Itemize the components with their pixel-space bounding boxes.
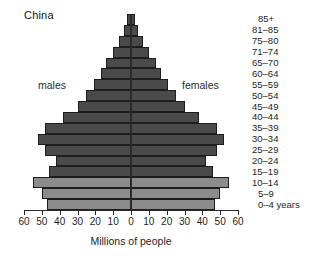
x-axis-tick-label: 50 <box>215 216 226 227</box>
age-group-label: 81–85 <box>252 25 310 35</box>
bar-male-5054 <box>86 90 131 101</box>
age-group-label: 45–49 <box>252 102 310 112</box>
x-axis-tick <box>60 210 61 215</box>
x-axis-tick <box>78 210 79 215</box>
bar-female-3539 <box>131 123 217 134</box>
age-group-label: 35–39 <box>252 123 310 133</box>
bar-female-2024 <box>131 156 206 167</box>
bar-male-4044 <box>63 112 131 123</box>
bar-male-5559 <box>94 79 131 90</box>
age-group-label: 0–4 years <box>252 200 316 210</box>
bar-male-3539 <box>45 123 131 134</box>
x-axis-tick <box>238 210 239 215</box>
age-group-label: 40–44 <box>252 112 310 122</box>
age-group-label: 55–59 <box>252 80 310 90</box>
population-pyramid-figure: China males females 60504030201001020304… <box>0 0 319 260</box>
bar-male-4549 <box>78 101 132 112</box>
x-axis-tick-label: 10 <box>143 216 154 227</box>
age-group-label: 15–19 <box>252 167 310 177</box>
bar-male-1519 <box>49 166 131 177</box>
x-axis-tick-label: 0 <box>128 216 134 227</box>
age-group-label: 30–34 <box>252 134 310 144</box>
x-axis-tick-label: 10 <box>108 216 119 227</box>
bar-female-3034 <box>131 134 224 145</box>
x-axis-tick-label: 60 <box>18 216 29 227</box>
females-label: females <box>182 79 219 91</box>
age-group-label: 71–74 <box>252 47 310 57</box>
x-axis-tick <box>131 210 132 215</box>
x-axis-tick <box>220 210 221 215</box>
x-axis-tick-label: 30 <box>72 216 83 227</box>
bar-female-6570 <box>131 58 156 69</box>
age-group-label: 65–70 <box>252 58 310 68</box>
bar-male-6570 <box>106 58 131 69</box>
age-group-label: 60–64 <box>252 69 310 79</box>
bar-male-7174 <box>113 47 131 58</box>
x-axis-tick-label: 20 <box>161 216 172 227</box>
age-group-label: 20–24 <box>252 156 310 166</box>
x-axis-tick <box>149 210 150 215</box>
bar-male-04 <box>47 199 131 210</box>
age-group-legend: 85+81–8575–8071–7465–7060–6455–5950–5445… <box>252 14 314 210</box>
center-axis-line <box>131 14 132 210</box>
bar-female-6064 <box>131 68 161 79</box>
age-group-label: 5–9 <box>252 189 316 199</box>
bar-female-7174 <box>131 47 149 58</box>
x-axis-tick-label: 30 <box>179 216 190 227</box>
bar-male-3034 <box>38 134 131 145</box>
x-axis-tick-label: 50 <box>36 216 47 227</box>
x-axis-tick-label: 20 <box>90 216 101 227</box>
bar-female-7580 <box>131 36 143 47</box>
x-axis-tick <box>95 210 96 215</box>
x-axis-title: Millions of people <box>0 235 262 247</box>
x-axis-tick-label: 40 <box>54 216 65 227</box>
bar-female-85+ <box>131 14 135 25</box>
bar-male-1014 <box>33 177 131 188</box>
x-axis-tick <box>202 210 203 215</box>
x-axis-tick-label: 60 <box>232 216 243 227</box>
age-group-label: 85+ <box>252 14 316 24</box>
bar-male-2024 <box>56 156 131 167</box>
bar-female-2529 <box>131 145 217 156</box>
bar-female-8185 <box>131 25 138 36</box>
x-axis-tick <box>113 210 114 215</box>
bar-female-4549 <box>131 101 185 112</box>
x-axis-tick <box>167 210 168 215</box>
x-axis-tick <box>42 210 43 215</box>
x-axis-tick <box>185 210 186 215</box>
age-group-label: 25–29 <box>252 145 310 155</box>
bar-female-1519 <box>131 166 213 177</box>
chart-plot-area <box>24 14 238 210</box>
bar-male-6064 <box>101 68 131 79</box>
bar-female-1014 <box>131 177 229 188</box>
age-group-label: 10–14 <box>252 178 310 188</box>
age-group-label: 50–54 <box>252 91 310 101</box>
bar-female-04 <box>131 199 215 210</box>
bar-male-59 <box>42 188 131 199</box>
bar-female-4044 <box>131 112 199 123</box>
males-label: males <box>38 79 66 91</box>
age-group-label: 75–80 <box>252 36 310 46</box>
x-axis-tick-label: 40 <box>197 216 208 227</box>
bar-male-7580 <box>119 36 131 47</box>
bar-female-59 <box>131 188 220 199</box>
x-axis-tick <box>24 210 25 215</box>
bar-male-2529 <box>45 145 131 156</box>
bar-female-5559 <box>131 79 168 90</box>
bar-female-5054 <box>131 90 176 101</box>
